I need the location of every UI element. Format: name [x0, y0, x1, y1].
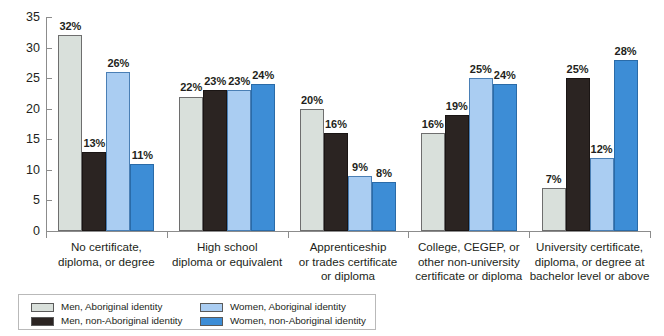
legend-label: Women, Aboriginal identity [230, 302, 346, 312]
bar [82, 152, 106, 231]
bar [445, 115, 469, 231]
category-label-line: diploma, or degree [46, 255, 167, 270]
legend-item[interactable]: Women, Aboriginal identity [200, 302, 346, 312]
bar-value-label: 16% [415, 119, 451, 130]
bar [421, 133, 445, 231]
chart-legend: Men, Aboriginal identityMen, non-Aborigi… [18, 294, 376, 330]
bar-value-label: 12% [584, 144, 620, 155]
x-axis-group-separator [650, 231, 651, 238]
category-label-line: bachelor level or above [529, 269, 650, 284]
x-axis-group-separator [46, 231, 47, 238]
category-label-line: or diploma [288, 269, 409, 284]
bar-value-label: 16% [318, 119, 354, 130]
bar [493, 84, 517, 231]
category-label-line: High school [167, 240, 288, 255]
x-axis-group-separator [529, 231, 530, 238]
category-label-line: Apprenticeship [288, 240, 409, 255]
bar [130, 164, 154, 231]
category-label-line: or trades certificate [288, 255, 409, 270]
bar-value-label: 20% [294, 95, 330, 106]
legend-swatch-icon [200, 303, 223, 312]
bar-value-label: 24% [245, 70, 281, 81]
bar-value-label: 8% [366, 168, 402, 179]
bar [372, 182, 396, 231]
legend-swatch-icon [200, 317, 223, 326]
bar-value-label: 26% [100, 58, 136, 69]
category-label: No certificate,diploma, or degree [46, 240, 167, 269]
legend-item[interactable]: Women, non-Aboriginal identity [200, 316, 366, 326]
bar [542, 188, 566, 231]
category-label-line: diploma or equivalent [167, 255, 288, 270]
bar-value-label: 11% [124, 150, 160, 161]
x-axis-group-separator [408, 231, 409, 238]
bars-layer [0, 0, 664, 231]
bar-value-label: 28% [608, 46, 644, 57]
bar-value-label: 13% [76, 138, 112, 149]
category-label-line: No certificate, [46, 240, 167, 255]
legend-swatch-icon [31, 303, 54, 312]
category-label-line: other non-university [408, 255, 529, 270]
legend-label: Women, non-Aboriginal identity [230, 316, 366, 326]
legend-label: Men, non-Aboriginal identity [61, 316, 182, 326]
x-axis-group-separator [288, 231, 289, 238]
legend-label: Men, Aboriginal identity [61, 302, 162, 312]
legend-item[interactable]: Men, Aboriginal identity [31, 302, 162, 312]
bar [179, 97, 203, 232]
bar [251, 84, 275, 231]
bar-value-label: 25% [560, 64, 596, 75]
bar-value-label: 24% [487, 70, 523, 81]
bar [58, 35, 82, 231]
bar-value-label: 32% [52, 21, 88, 32]
bar [590, 158, 614, 231]
category-label-line: certificate or diploma [408, 269, 529, 284]
bar [203, 90, 227, 231]
x-axis-group-separator [167, 231, 168, 238]
x-axis-line [46, 231, 650, 232]
category-label-line: College, CEGEP, or [408, 240, 529, 255]
bar [227, 90, 251, 231]
category-label: University certificate,diploma, or degre… [529, 240, 650, 284]
category-label-line: diploma, or degree at [529, 255, 650, 270]
bar-chart: 05101520253035 32%13%26%11%22%23%23%24%2… [0, 0, 664, 290]
legend-item[interactable]: Men, non-Aboriginal identity [31, 316, 182, 326]
bar [348, 176, 372, 231]
legend-swatch-icon [31, 317, 54, 326]
bar-value-label: 19% [439, 101, 475, 112]
category-label: College, CEGEP, orother non-universityce… [408, 240, 529, 284]
category-label: Apprenticeshipor trades certificateor di… [288, 240, 409, 284]
bar [324, 133, 348, 231]
bar-value-label: 7% [536, 174, 572, 185]
category-label: High schooldiploma or equivalent [167, 240, 288, 269]
category-label-line: University certificate, [529, 240, 650, 255]
